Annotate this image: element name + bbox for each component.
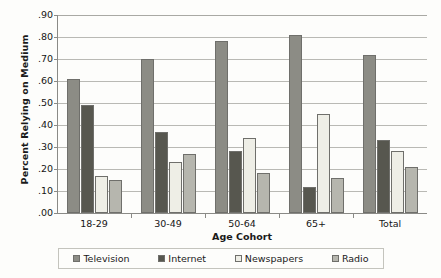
legend-swatch-icon [235, 255, 242, 262]
bar-group [279, 15, 353, 213]
y-axis-tick-label: .50 [19, 98, 53, 108]
bar[interactable] [289, 35, 302, 213]
bar[interactable] [95, 176, 108, 213]
bar[interactable] [331, 178, 344, 213]
bar-chart-figure: Percent Relying on Medium .00.10.20.30.4… [0, 0, 441, 278]
bar[interactable] [391, 151, 404, 213]
bar[interactable] [303, 187, 316, 213]
legend-item[interactable]: Radio [332, 253, 369, 264]
y-axis-tick-label: .00 [19, 208, 53, 218]
legend-label: Television [83, 253, 129, 264]
bar[interactable] [215, 41, 228, 213]
bar[interactable] [229, 151, 242, 213]
bar[interactable] [155, 132, 168, 213]
legend-item[interactable]: Television [73, 253, 129, 264]
legend-label: Radio [342, 253, 369, 264]
legend-label: Internet [168, 253, 206, 264]
bar-group [58, 15, 132, 213]
legend-swatch-icon [158, 255, 165, 262]
y-axis-tick-label: .80 [19, 32, 53, 42]
bar-group [206, 15, 280, 213]
bar[interactable] [405, 167, 418, 213]
legend-item[interactable]: Newspapers [235, 253, 303, 264]
x-axis-title: Age Cohort [57, 231, 427, 242]
y-axis-tick-label: .10 [19, 186, 53, 196]
x-axis-tick-label: 18-29 [57, 218, 131, 229]
bar[interactable] [141, 59, 154, 213]
legend-item[interactable]: Internet [158, 253, 206, 264]
bar[interactable] [317, 114, 330, 213]
bar[interactable] [67, 79, 80, 213]
bar[interactable] [257, 173, 270, 213]
x-axis-tick-labels: 18-2930-4950-6465+Total [57, 218, 427, 229]
y-axis-tick-label: .20 [19, 164, 53, 174]
bar[interactable] [169, 162, 182, 213]
bar-group [353, 15, 427, 213]
y-axis-tick-label: .60 [19, 76, 53, 86]
legend-label: Newspapers [245, 253, 303, 264]
bar[interactable] [81, 105, 94, 213]
chart-legend: TelevisionInternetNewspapersRadio [58, 248, 384, 269]
bar[interactable] [243, 138, 256, 213]
bar[interactable] [377, 140, 390, 213]
bar-group [132, 15, 206, 213]
y-axis-tick-label: .40 [19, 120, 53, 130]
bar[interactable] [363, 55, 376, 213]
x-axis-tick-label: 50-64 [205, 218, 279, 229]
plot-area: .00.10.20.30.40.50.60.70.80.90 [57, 15, 427, 214]
bar-groups [58, 15, 427, 213]
bar[interactable] [183, 154, 196, 213]
x-axis-tick-label: Total [353, 218, 427, 229]
x-axis-tick-label: 65+ [279, 218, 353, 229]
legend-swatch-icon [332, 255, 339, 262]
y-axis-tick-label: .30 [19, 142, 53, 152]
legend-swatch-icon [73, 255, 80, 262]
bar[interactable] [109, 180, 122, 213]
y-axis-tick-mark [54, 213, 58, 214]
x-axis-tick-label: 30-49 [131, 218, 205, 229]
y-axis-tick-label: .70 [19, 54, 53, 64]
y-axis-tick-label: .90 [19, 10, 53, 20]
